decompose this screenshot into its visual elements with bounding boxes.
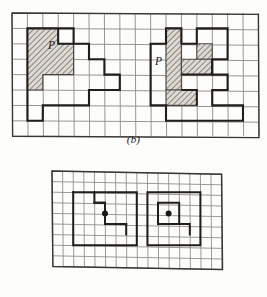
seed-region-right-b	[166, 28, 212, 105]
seed-region-left-b	[27, 28, 73, 90]
seed-label-left-b: P	[47, 39, 55, 51]
figure-page: P P	[0, 0, 267, 297]
center-dot-left-c	[102, 210, 108, 216]
panel-b: P P	[0, 0, 267, 148]
panel-c: (c)	[0, 148, 267, 297]
panel-b-drawing: P P	[0, 0, 267, 148]
panel-c-drawing	[0, 148, 267, 297]
center-dot-right-c	[166, 210, 172, 216]
left-region-inner-steps-b	[58, 28, 73, 43]
seed-label-right-b: P	[154, 55, 162, 67]
caption-b: (b)	[0, 133, 267, 145]
